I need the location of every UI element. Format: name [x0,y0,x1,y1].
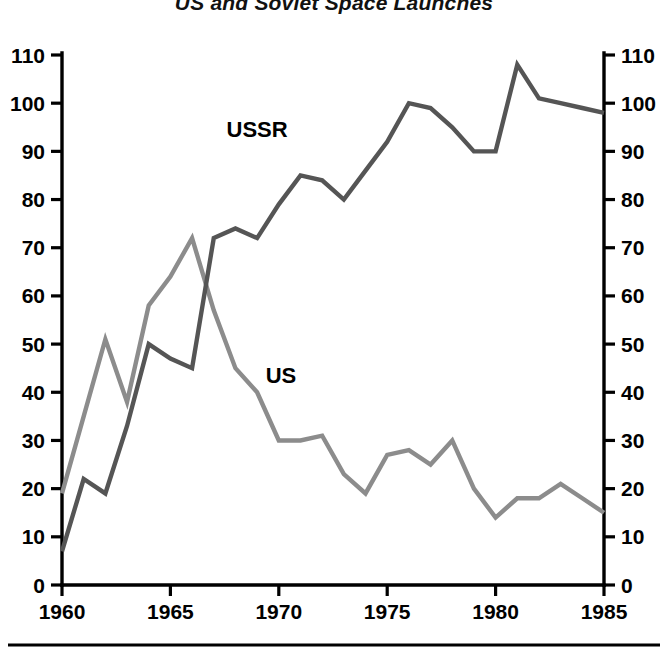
bottom-axis-group: 196019651970197519801985 [39,585,628,623]
left-axis-group: 0102030405060708090100110 [10,44,62,597]
line-chart-plot: 0102030405060708090100110 01020304050607… [0,0,668,660]
left-tick-label-40: 40 [22,381,45,404]
x-tick-label-1980: 1980 [472,600,519,623]
series-label-us: US [266,363,297,388]
series-line-us [62,238,604,517]
x-tick-label-1970: 1970 [255,600,302,623]
right-tick-label-90: 90 [621,140,644,163]
left-tick-label-30: 30 [22,429,45,452]
x-tick-label-1975: 1975 [364,600,411,623]
left-tick-label-20: 20 [22,477,45,500]
x-tick-label-1965: 1965 [147,600,194,623]
right-tick-label-100: 100 [621,92,656,115]
right-axis-tick-labels: 0102030405060708090100110 [621,44,656,597]
left-tick-label-100: 100 [10,92,45,115]
chart-figure: US and Soviet Space Launches 01020304050… [0,0,668,660]
right-tick-label-40: 40 [621,381,644,404]
x-tick-label-1960: 1960 [39,600,86,623]
right-tick-label-70: 70 [621,236,644,259]
right-tick-label-10: 10 [621,525,644,548]
left-tick-label-80: 80 [22,188,45,211]
left-tick-label-70: 70 [22,236,45,259]
data-series-group [62,65,604,552]
right-tick-label-20: 20 [621,477,644,500]
series-inline-labels: USUSSR [227,117,297,388]
left-tick-label-90: 90 [22,140,45,163]
left-tick-label-0: 0 [33,574,45,597]
x-tick-label-1985: 1985 [581,600,628,623]
right-tick-label-80: 80 [621,188,644,211]
left-tick-label-110: 110 [11,44,45,67]
series-label-ussr: USSR [227,117,288,142]
x-axis-tick-labels: 196019651970197519801985 [39,600,628,623]
right-tick-label-30: 30 [621,429,644,452]
right-axis-group: 0102030405060708090100110 [604,44,656,597]
right-tick-label-0: 0 [621,574,633,597]
right-tick-label-60: 60 [621,284,644,307]
left-axis-tick-labels: 0102030405060708090100110 [10,44,45,597]
series-line-ussr [62,65,604,552]
left-tick-label-10: 10 [22,525,45,548]
left-tick-label-60: 60 [22,284,45,307]
right-tick-label-110: 110 [621,44,655,67]
right-tick-label-50: 50 [621,333,644,356]
left-tick-label-50: 50 [22,333,45,356]
